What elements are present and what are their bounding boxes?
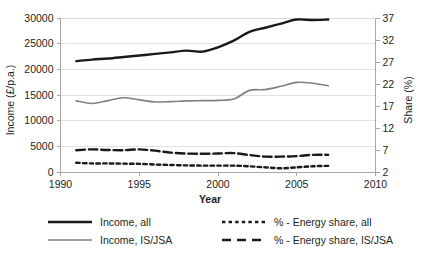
left-tick-label: 30000: [24, 12, 53, 24]
right-tick-label: 7: [383, 144, 389, 156]
left-tick-label: 5000: [30, 140, 54, 152]
right-tick-label: 12: [383, 122, 395, 134]
legend-label: % - Energy share, IS/JSA: [274, 234, 393, 246]
x-tick-label: 2010: [364, 178, 388, 190]
left-tick-label: 0: [48, 166, 54, 178]
chart-legend: Income, all% - Energy share, allIncome, …: [48, 216, 393, 246]
series-line-2: [76, 163, 328, 169]
line-chart: 050001000015000200002500030000 271217222…: [0, 0, 424, 254]
x-tick-label: 2005: [285, 178, 309, 190]
left-tick-label: 25000: [24, 37, 53, 49]
x-tick-label: 1995: [128, 178, 152, 190]
legend-label: Income, all: [100, 216, 151, 228]
left-axis-tick-labels: 050001000015000200002500030000: [24, 12, 60, 178]
right-tick-label: 37: [383, 12, 395, 24]
series-line-3: [76, 149, 328, 156]
series-line-0: [76, 19, 328, 61]
right-tick-label: 27: [383, 56, 395, 68]
series-line-1: [76, 82, 328, 103]
left-tick-label: 10000: [24, 114, 53, 126]
data-series: [76, 19, 328, 168]
chart-figure: 050001000015000200002500030000 271217222…: [0, 0, 424, 254]
right-tick-label: 17: [383, 100, 395, 112]
right-tick-label: 2: [383, 166, 389, 178]
right-tick-label: 22: [383, 78, 395, 90]
x-tick-label: 2000: [206, 178, 230, 190]
legend-label: Income, IS/JSA: [100, 234, 172, 246]
legend-label: % - Energy share, all: [274, 216, 371, 228]
right-axis-tick-labels: 27121722273237: [376, 12, 395, 178]
y2-axis-title: Share (%): [402, 76, 414, 123]
right-tick-label: 32: [383, 34, 395, 46]
y-axis-title: Income (£/p.a.): [4, 65, 16, 136]
left-tick-label: 20000: [24, 63, 53, 75]
x-tick-label: 1990: [49, 178, 73, 190]
left-tick-label: 15000: [24, 89, 53, 101]
x-axis-title: Year: [199, 193, 221, 205]
x-axis-tick-labels: 19901995200020052010: [49, 172, 388, 190]
